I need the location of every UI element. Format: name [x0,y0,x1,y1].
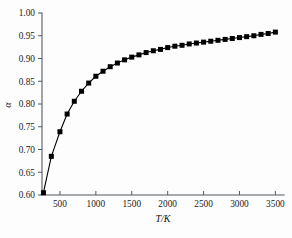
data-point-marker [79,89,84,94]
data-point-marker [108,64,113,69]
data-point-marker [172,44,177,49]
y-axis-ticks [38,13,42,195]
y-axis-title: α [2,102,13,108]
data-point-marker [266,31,271,36]
data-point-marker [65,112,70,117]
data-point-marker [237,35,242,40]
data-point-marker [72,99,77,104]
y-tick-label: 0.75 [19,122,36,132]
alpha-vs-temperature-chart: 0.600.650.700.750.800.850.900.951.00 500… [0,0,292,238]
x-tick-label: 500 [53,199,67,209]
data-point-marker [136,52,141,57]
data-point-marker [144,50,149,55]
data-point-marker [208,39,213,44]
x-tick-label: 3000 [230,199,249,209]
x-tick-label: 3500 [266,199,285,209]
data-point-marker [57,129,62,134]
data-point-marker [165,45,170,50]
data-point-marker [93,74,98,79]
data-point-marker [115,61,120,66]
data-point-marker [187,41,192,46]
chart-figure: 0.600.650.700.750.800.850.900.951.00 500… [0,0,292,238]
y-tick-label: 0.65 [19,168,36,178]
x-axis-ticks [60,191,275,195]
y-axis-tick-labels: 0.600.650.700.750.800.850.900.951.00 [19,8,36,200]
data-point-marker [151,48,156,53]
data-point-marker [180,43,185,48]
data-point-marker [86,81,91,86]
y-tick-label: 1.00 [19,8,36,18]
y-tick-label: 0.70 [19,145,36,155]
data-point-marker [251,33,256,38]
data-point-marker [273,30,278,35]
axis-spines [42,13,284,195]
data-point-marker [41,190,46,195]
data-point-marker [244,34,249,39]
x-tick-label: 1500 [122,199,141,209]
y-tick-label: 0.90 [19,54,36,64]
data-point-marker [129,55,134,60]
data-series-markers [41,30,278,196]
data-point-marker [223,37,228,42]
x-axis-title: T/K [155,213,171,224]
data-series-line [43,32,275,193]
data-point-marker [49,154,54,159]
data-point-marker [201,40,206,45]
data-point-marker [122,57,127,62]
data-point-marker [101,69,106,74]
data-point-marker [158,47,163,52]
y-tick-label: 0.85 [19,77,36,87]
y-tick-label: 0.80 [19,99,36,109]
x-axis-tick-labels: 500100015002000250030003500 [53,199,285,209]
x-tick-label: 2000 [158,199,177,209]
data-point-marker [230,36,235,41]
data-point-marker [194,41,199,46]
x-tick-label: 2500 [194,199,213,209]
y-tick-label: 0.95 [19,31,36,41]
x-tick-label: 1000 [87,199,106,209]
data-point-marker [215,38,220,43]
y-tick-label: 0.60 [19,190,36,200]
data-point-marker [259,32,264,37]
